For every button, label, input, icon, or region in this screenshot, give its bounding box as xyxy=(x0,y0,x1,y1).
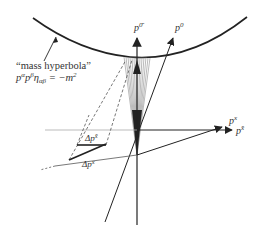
mass-hyperbola-label: “mass hyperbola” xyxy=(16,60,91,71)
p0-label: p0 xyxy=(174,21,184,33)
px-axis-extension xyxy=(55,155,137,166)
px-axis xyxy=(137,127,222,155)
delta-px-segment xyxy=(69,144,106,160)
pxbar-label: px̄ xyxy=(235,124,245,136)
mass-shell-equation: pαpβηαβ = −m2 xyxy=(15,71,77,85)
mass-hyperbola-diagram: “mass hyperbola” pαpβηαβ = −m2 p0̄ p0 px… xyxy=(0,0,261,231)
delta-pxbar-label: Δpx̄ xyxy=(84,132,98,143)
delta-px-label: Δpx xyxy=(81,158,95,169)
px-axis-extension-dashed xyxy=(40,166,55,170)
p0bar-label: p0̄ xyxy=(133,21,145,33)
